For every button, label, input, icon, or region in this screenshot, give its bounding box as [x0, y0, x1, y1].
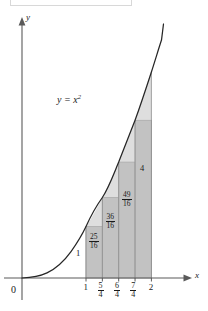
function-label-lhs: y = x [57, 94, 78, 105]
x-axis-arrow-icon [184, 275, 193, 282]
plot-canvas [0, 0, 208, 311]
rect-height-label-49-16: 49 16 [122, 191, 132, 209]
rect-25-16-denominator: 16 [89, 242, 99, 250]
x-tick-label-5-4: 5 4 [98, 282, 104, 300]
rect-49-16-denominator: 16 [122, 200, 132, 208]
x-tick-7-4-denominator: 4 [130, 291, 136, 299]
y-axis [19, 17, 26, 300]
y-axis-arrow-icon [19, 17, 26, 26]
x-tick-label-1: 1 [84, 283, 89, 292]
x-tick-5-4-denominator: 4 [98, 291, 104, 299]
rect-height-label-4: 4 [140, 164, 144, 173]
rect-height-label-1: 1 [76, 249, 80, 258]
x-axis-label: x [195, 271, 199, 280]
x-tick-6-4-denominator: 4 [114, 291, 120, 299]
rect-36-16-denominator: 16 [106, 222, 116, 230]
x-tick-label-7-4: 7 4 [130, 282, 136, 300]
function-label-exponent: 2 [78, 93, 81, 100]
riemann-sum-figure: y x 0 y = x2 1 5 4 6 4 7 4 2 1 25 16 [0, 0, 208, 311]
y-axis-label: y [26, 13, 30, 22]
rect-height-label-36-16: 36 16 [106, 213, 116, 231]
function-label: y = x2 [57, 95, 81, 105]
x-tick-label-6-4: 6 4 [114, 282, 120, 300]
x-tick-label-2: 2 [149, 283, 154, 292]
rect-height-label-25-16: 25 16 [89, 233, 99, 251]
origin-label: 0 [11, 285, 16, 295]
